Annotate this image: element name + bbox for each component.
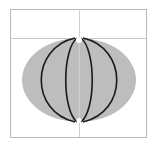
globe-diagram [0, 0, 156, 142]
diagram-canvas [0, 0, 156, 142]
bottom-pole-gap [77, 118, 82, 123]
top-pole-gap [76, 37, 82, 43]
